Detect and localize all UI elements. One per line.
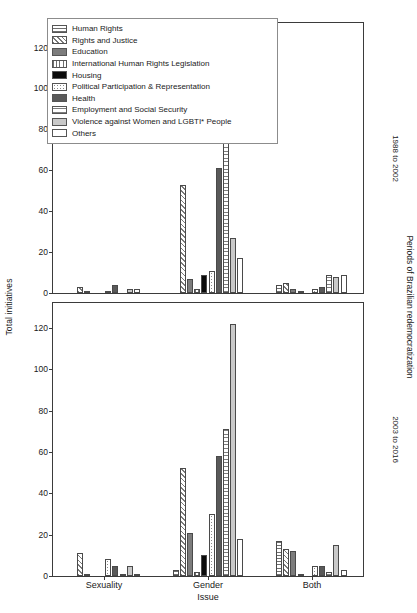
y-axis-tick-mark	[49, 452, 53, 453]
bar	[326, 275, 332, 293]
bar	[333, 545, 339, 576]
bar	[105, 559, 111, 576]
legend-swatch-icon	[52, 25, 67, 33]
bar	[290, 289, 296, 293]
panel-2003-2016: 020406080100120	[52, 302, 364, 577]
legend-swatch-icon	[52, 48, 67, 56]
legend-swatch-icon	[52, 36, 67, 44]
bar	[112, 566, 118, 576]
legend-swatch-icon	[52, 71, 67, 79]
y-axis-tick-label: 20	[8, 247, 53, 257]
bar	[341, 570, 347, 576]
x-axis-tick-mark	[208, 576, 209, 580]
bar	[216, 456, 222, 576]
y-axis-tick-label: 40	[8, 488, 53, 498]
bar	[283, 549, 289, 576]
legend-label: Employment and Social Security	[72, 104, 187, 115]
x-axis-tick-mark	[104, 576, 105, 580]
bar	[84, 574, 90, 576]
legend-label: Health	[72, 93, 95, 104]
bar	[187, 279, 193, 293]
bar	[105, 291, 111, 293]
plot-area-bottom: 020406080100120	[53, 303, 363, 576]
bar	[201, 275, 207, 293]
y-axis-tick-label: 100	[8, 364, 53, 374]
bar	[194, 572, 200, 576]
bar	[326, 572, 332, 576]
bar	[223, 121, 229, 293]
chart-figure: Total initiatives Periods of Brazilian r…	[0, 0, 417, 613]
legend-item: Education	[52, 46, 272, 58]
y-axis-tick-mark	[49, 411, 53, 412]
legend-label: Human Rights	[72, 23, 123, 34]
bar	[209, 514, 215, 576]
legend-item: Violence against Women and LGBTI* People	[52, 116, 272, 128]
bar	[319, 287, 325, 293]
x-axis-tick-label: Both	[303, 580, 322, 590]
bar	[276, 285, 282, 293]
bar	[283, 283, 289, 293]
legend-label: Others	[72, 128, 96, 139]
bar	[194, 289, 200, 293]
y-axis-tick-label: 20	[8, 530, 53, 540]
legend-item: Human Rights	[52, 23, 272, 35]
y-axis-tick-mark	[49, 493, 53, 494]
y-axis-tick-mark	[49, 252, 53, 253]
y-axis-tick-label: 40	[8, 206, 53, 216]
bar	[187, 533, 193, 576]
legend-item: Political Participation & Representation	[52, 81, 272, 93]
x-axis-tick-label: Sexuality	[86, 580, 123, 590]
legend-label: Violence against Women and LGBTI* People	[72, 116, 231, 127]
y-axis-tick-label: 80	[8, 406, 53, 416]
bar	[112, 285, 118, 293]
bar	[180, 468, 186, 576]
x-axis-title: Issue	[52, 592, 364, 602]
y-axis-tick-label: 0	[8, 571, 53, 581]
bar	[120, 574, 126, 576]
bar	[180, 185, 186, 293]
y-axis-tick-label: 0	[8, 288, 53, 298]
legend-item: Rights and Justice	[52, 35, 272, 47]
bar	[237, 258, 243, 293]
bar	[319, 566, 325, 576]
bar	[127, 566, 133, 576]
bar	[77, 553, 83, 576]
bar	[298, 291, 304, 293]
bar	[77, 287, 83, 293]
bar	[312, 566, 318, 576]
bar	[230, 324, 236, 576]
bar	[173, 570, 179, 576]
bar	[201, 555, 207, 576]
legend-item: Employment and Social Security	[52, 104, 272, 116]
bar	[127, 289, 133, 293]
y-axis-tick-mark	[49, 535, 53, 536]
bar	[341, 275, 347, 293]
legend-item: Others	[52, 127, 272, 139]
y-axis-tick-mark	[49, 328, 53, 329]
legend-label: Housing	[72, 70, 101, 81]
bar	[134, 574, 140, 576]
bar	[333, 277, 339, 293]
legend-item: Health	[52, 93, 272, 105]
bar	[134, 289, 140, 293]
legend-swatch-icon	[52, 106, 67, 114]
y-axis-tick-mark	[49, 576, 53, 577]
legend-label: Education	[72, 46, 108, 57]
y-axis-tick-label: 60	[8, 447, 53, 457]
bar	[312, 289, 318, 293]
x-axis-tick-label: Gender	[193, 580, 223, 590]
legend-swatch-icon	[52, 60, 67, 68]
y-axis-tick-mark	[49, 369, 53, 370]
y-axis-tick-label: 120	[8, 323, 53, 333]
bar	[290, 551, 296, 576]
y-axis-tick-mark	[49, 211, 53, 212]
legend-item: International Human Rights Legislation	[52, 58, 272, 70]
legend-swatch-icon	[52, 118, 67, 126]
legend-label: International Human Rights Legislation	[72, 58, 209, 69]
y-axis-tick-mark	[49, 170, 53, 171]
bar	[276, 541, 282, 576]
bar	[216, 168, 222, 293]
legend-item: Housing	[52, 69, 272, 81]
y-axis-tick-mark	[49, 293, 53, 294]
y-axis-tick-label: 60	[8, 165, 53, 175]
